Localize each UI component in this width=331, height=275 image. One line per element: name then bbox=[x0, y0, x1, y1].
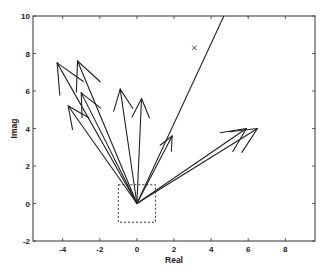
plot-area bbox=[57, 0, 257, 222]
x-tick-label: 6 bbox=[246, 245, 251, 254]
axes-frame bbox=[33, 16, 315, 241]
x-tick-label: 4 bbox=[209, 245, 214, 254]
y-tick-label: 2 bbox=[26, 162, 31, 171]
arrowhead-barb bbox=[171, 136, 172, 151]
x-tick-label: 8 bbox=[283, 245, 288, 254]
vector-arrow bbox=[76, 61, 137, 204]
y-tick-label: 10 bbox=[21, 12, 30, 21]
x-tick-label: 2 bbox=[172, 245, 177, 254]
vector-shaft bbox=[137, 129, 246, 204]
vector-arrow bbox=[137, 0, 248, 204]
vector-shaft bbox=[137, 129, 258, 204]
y-tick-label: 6 bbox=[26, 87, 31, 96]
x-tick-label: -4 bbox=[59, 245, 67, 254]
arrowhead-barb bbox=[114, 89, 121, 111]
y-tick-label: 4 bbox=[26, 125, 31, 134]
arrowhead-barb bbox=[142, 99, 150, 118]
y-tick-label: 0 bbox=[26, 200, 31, 209]
arrowhead-barb bbox=[81, 93, 100, 108]
tick-labels: -4-202468-20246810 bbox=[21, 12, 288, 254]
y-axis-label: Imag bbox=[9, 119, 19, 139]
vector-arrow bbox=[137, 129, 258, 204]
compass-chart: -4-202468-20246810 Real Imag bbox=[0, 0, 331, 275]
x-axis-label: Real bbox=[165, 255, 183, 265]
arrowhead-barb bbox=[132, 99, 142, 118]
y-tick-label: -2 bbox=[23, 237, 31, 246]
vector-shaft bbox=[57, 63, 137, 204]
x-tick-label: 0 bbox=[135, 245, 140, 254]
vector-shaft bbox=[137, 0, 248, 204]
y-tick-label: 8 bbox=[26, 50, 31, 59]
arrowhead-barb bbox=[68, 106, 89, 118]
vector-shaft bbox=[137, 99, 142, 204]
vector-arrow bbox=[137, 129, 246, 204]
x-marker bbox=[192, 46, 196, 50]
arrowhead-barb bbox=[76, 61, 77, 92]
x-tick-label: -2 bbox=[96, 245, 104, 254]
arrowhead-barb bbox=[78, 61, 101, 82]
axis-ticks bbox=[33, 16, 315, 241]
vector-arrow bbox=[57, 63, 137, 204]
